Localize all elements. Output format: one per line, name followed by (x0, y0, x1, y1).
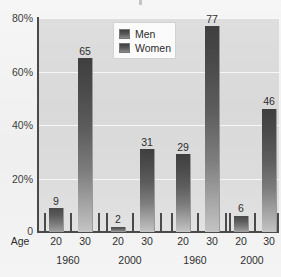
legend: Men Women (113, 22, 176, 59)
axis-tick-separator (70, 213, 72, 232)
axis-tick-separator (106, 213, 108, 232)
bar-women-1960-age20 (176, 154, 191, 232)
axis-tick-separator (229, 213, 231, 232)
axis-tick-separator (44, 213, 46, 232)
x-group-label-men-2000: 2000 (108, 255, 152, 266)
axis-tick-separator (171, 213, 173, 232)
legend-label-women: Women (135, 43, 171, 54)
x-tick-label-women-1960-20: 20 (171, 236, 195, 247)
axis-tick-separator (277, 213, 279, 232)
legend-label-men: Men (135, 29, 155, 40)
y-tick-label-20: 20% (0, 174, 33, 184)
bar-women-2000-age20 (234, 216, 249, 232)
legend-item-men: Men (119, 27, 170, 41)
y-tick-label-60: 60% (0, 67, 33, 77)
x-tick-label-women-2000-20: 20 (229, 236, 253, 247)
legend-swatch-icon (119, 29, 130, 39)
bar-women-1960-age30 (205, 26, 220, 232)
y-tick-label-80: 80% (0, 13, 33, 23)
bar-men-1960-age30 (78, 58, 93, 232)
bar-value-label-29: 29 (171, 142, 195, 153)
x-tick-label-men-1960-20: 20 (44, 236, 68, 247)
x-axis-age-label: Age (4, 236, 36, 247)
bar-value-label-6: 6 (229, 203, 253, 214)
x-group-label-women-1960: 1960 (173, 255, 217, 266)
axis-tick-separator (225, 213, 227, 232)
bar-value-label-31: 31 (135, 137, 159, 148)
axis-tick-separator (197, 213, 199, 232)
x-tick-label-women-1960-30: 30 (200, 236, 224, 247)
bar-men-2000-age20 (111, 227, 126, 232)
x-tick-label-men-1960-30: 30 (73, 236, 97, 247)
bar-men-2000-age30 (140, 149, 155, 232)
bar-value-label-2: 2 (106, 214, 130, 225)
legend-item-women: Women (119, 41, 170, 55)
bar-value-label-77: 77 (200, 14, 224, 25)
axis-tick-separator (160, 213, 162, 232)
bar-value-label-46: 46 (257, 96, 281, 107)
x-tick-label-women-2000-30: 30 (257, 236, 281, 247)
x-tick-label-men-2000-30: 30 (135, 236, 159, 247)
bar-women-2000-age30 (262, 109, 277, 232)
bar-chart: 80% 60% 40% 20% 0 9 65 2 31 29 77 6 46 M… (0, 0, 281, 277)
legend-swatch-icon (119, 43, 130, 53)
x-group-label-women-2000: 2000 (230, 255, 274, 266)
axis-tick-separator (132, 213, 134, 232)
x-group-label-men-1960: 1960 (46, 255, 90, 266)
y-tick-label-40: 40% (0, 120, 33, 130)
bar-value-label-65: 65 (73, 46, 97, 57)
bar-value-label-9: 9 (44, 196, 68, 207)
x-tick-label-men-2000-20: 20 (106, 236, 130, 247)
axis-tick-separator (98, 213, 100, 232)
bar-men-1960-age20 (49, 208, 64, 232)
axis-tick-separator (254, 213, 256, 232)
